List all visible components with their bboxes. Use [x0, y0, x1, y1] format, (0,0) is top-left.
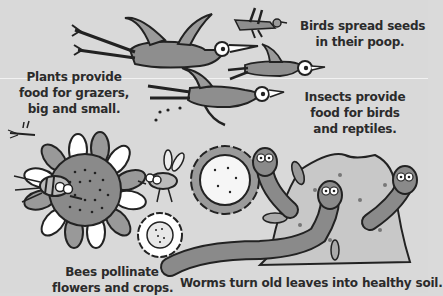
caption-worms: Worms turn old leaves into healthy soil. [180, 275, 425, 291]
caption-line: Birds spread seeds [300, 18, 420, 34]
flower-icon [138, 213, 182, 257]
caption-line: Bees pollinate [52, 264, 172, 280]
caption-line: in their poop. [300, 34, 420, 50]
mosquito-icon [8, 121, 35, 138]
caption-line: food for grazers, [18, 85, 130, 101]
caption-line: flowers and crops. [52, 280, 172, 296]
caption-line: big and small. [18, 101, 130, 117]
caption-line: food for birds [300, 105, 410, 121]
caption-line: Worms turn old leaves into healthy soil. [180, 275, 425, 291]
caption-birds: Birds spread seeds in their poop. [300, 18, 420, 50]
caption-insects: Insects provide food for birds and repti… [300, 89, 410, 137]
caption-line: Plants provide [18, 69, 130, 85]
caption-line: Insects provide [300, 89, 410, 105]
bird-icon [148, 68, 284, 125]
caption-line: and reptiles. [300, 121, 410, 137]
flower-icon [191, 146, 259, 214]
caption-bees: Bees pollinate flowers and crops. [52, 264, 172, 296]
worm-icon [253, 148, 290, 210]
bird-icon [72, 14, 258, 68]
caption-plants: Plants provide food for grazers, big and… [18, 69, 130, 117]
bird-icon [235, 8, 287, 38]
